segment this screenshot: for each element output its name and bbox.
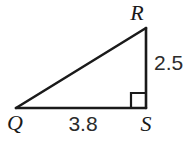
geometry-figure: R Q S 2.5 3.8: [0, 0, 193, 141]
segment-qr-hypotenuse: [16, 28, 146, 108]
triangle-diagram-canvas: R Q S 2.5 3.8: [0, 0, 193, 141]
vertex-label-s: S: [141, 111, 152, 136]
measure-label-horizontal-leg: 3.8: [68, 112, 97, 135]
vertex-label-q: Q: [7, 110, 23, 135]
measure-label-vertical-leg: 2.5: [154, 51, 183, 74]
right-angle-marker-icon: [131, 93, 146, 108]
vertex-label-r: R: [129, 0, 144, 25]
